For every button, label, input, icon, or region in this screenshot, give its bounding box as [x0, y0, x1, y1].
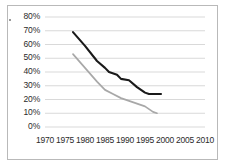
y-tick-label: 70%: [14, 25, 40, 35]
y-tick-label: 30%: [14, 80, 40, 90]
y-tick-label: 50%: [14, 52, 40, 62]
gridlines-group: [45, 17, 205, 127]
y-tick-label: 60%: [14, 39, 40, 49]
x-tick-label: 2010: [193, 135, 217, 145]
y-tick-label: 10%: [14, 107, 40, 117]
chart-figure: 80%70%60%50%40%30%20%10%0% 1970197519801…: [0, 0, 225, 167]
y-tick-label: 0%: [14, 121, 40, 131]
y-tick-label: 40%: [14, 66, 40, 76]
series-line-upper-series: [73, 32, 161, 94]
y-tick-label: 80%: [14, 11, 40, 21]
y-tick-label: 20%: [14, 94, 40, 104]
series-line-lower-series: [73, 54, 157, 113]
